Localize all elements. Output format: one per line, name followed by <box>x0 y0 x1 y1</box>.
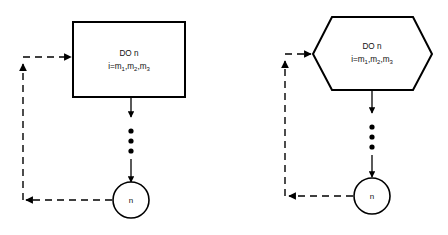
process-label-prefix: i=m <box>351 55 365 64</box>
left-panel-group: DO n i=m1,m2,m3 n <box>23 22 185 218</box>
process-label-line1: DO n <box>362 42 382 51</box>
flowchart-canvas: DO n i=m1,m2,m3 n <box>0 0 448 235</box>
process-label-prefix: i=m <box>108 62 122 71</box>
right-panel-group: DO n i=m1,m2,m3 n <box>285 17 432 214</box>
ellipsis-dot-3 <box>128 148 133 153</box>
ellipsis-dot-1 <box>369 124 374 129</box>
ellipsis-dot-1 <box>128 128 133 133</box>
process-rectangle <box>73 22 185 97</box>
ellipsis-dot-2 <box>128 138 133 143</box>
process-label-line2: i=m1,m2,m3 <box>351 55 393 65</box>
flowchart-diagram: DO n i=m1,m2,m3 n <box>0 0 448 235</box>
terminal-circle-label: n <box>370 192 374 201</box>
process-label-line1: DO n <box>119 49 139 58</box>
terminal-circle-label: n <box>129 196 133 205</box>
ellipsis-dot-2 <box>369 134 374 139</box>
process-hexagon <box>313 17 432 90</box>
ellipsis-dot-3 <box>369 144 374 149</box>
process-label-line2: i=m1,m2,m3 <box>108 62 150 72</box>
